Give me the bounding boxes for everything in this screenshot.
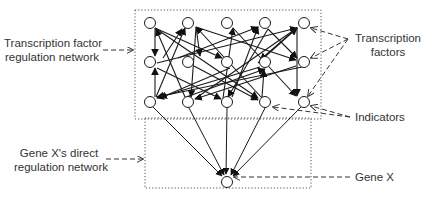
gene-x-node [222, 177, 233, 188]
tf-label-line2: factors [353, 45, 423, 59]
tf-node [299, 18, 310, 29]
diagram-canvas: Transcription factor regulation network … [0, 0, 430, 198]
gene-x-label: Gene X [355, 170, 394, 184]
direct-network-label-line2: regulation network [14, 160, 104, 174]
direct-network-label-line1: Gene X's direct [14, 146, 104, 160]
tf-node [145, 18, 156, 29]
tf-node [260, 18, 271, 29]
indicators-callout-2 [273, 107, 350, 117]
tf-network-label-line2: regulation network [4, 50, 100, 64]
transcription-factors-label: Transcription factors [353, 31, 423, 59]
tf-node [145, 57, 156, 68]
tf-callout-3 [308, 39, 348, 96]
indicator-node [183, 97, 194, 108]
tf-node [260, 57, 271, 68]
indicators-label: Indicators [355, 110, 405, 124]
tf-node [222, 18, 233, 29]
tf-callout-1 [311, 28, 348, 39]
indicators-callout-1 [311, 106, 350, 117]
gene-x-direct-edges [153, 107, 301, 176]
indicator-node [222, 97, 233, 108]
direct-regulation-network-label: Gene X's direct regulation network [14, 146, 104, 174]
indicator-node [260, 97, 271, 108]
tf-node [183, 18, 194, 29]
tf-node [299, 57, 310, 68]
indicator-node [145, 97, 156, 108]
tf-callout-2 [311, 39, 348, 58]
tf-label-line1: Transcription [353, 31, 423, 45]
network-nodes [145, 18, 310, 188]
tf-node [222, 57, 233, 68]
tf-regulation-network-label: Transcription factor regulation network [4, 36, 100, 64]
indicator-node [299, 97, 310, 108]
tf-node [183, 57, 194, 68]
tf-network-label-line1: Transcription factor [4, 36, 100, 50]
